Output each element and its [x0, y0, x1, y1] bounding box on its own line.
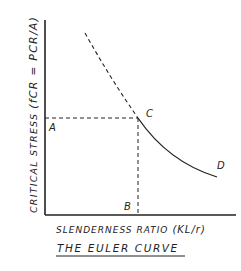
x-axis-label: SLENDERNESS RATIO(KL/r): [56, 224, 206, 235]
x-axis-label-formula: (KL/r): [172, 224, 205, 235]
y-axis-label-text: CRITICAL STRESS: [28, 113, 39, 213]
point-label-d: D: [217, 160, 225, 171]
euler-curve-dashed: [85, 33, 138, 118]
point-label-c: C: [146, 108, 153, 119]
point-label-b: B: [124, 201, 131, 212]
euler-curve-diagram: A B C D CRITICAL STRESS(fCR = PCR/A) SLE…: [0, 0, 241, 271]
x-axis-label-text: SLENDERNESS RATIO: [56, 225, 168, 235]
euler-curve-solid: [138, 118, 217, 177]
y-axis-label-formula: (fCR = PCR/A): [27, 16, 40, 109]
point-label-a: A: [48, 122, 56, 133]
y-axis-label: CRITICAL STRESS(fCR = PCR/A): [27, 16, 40, 213]
diagram-title: THE EULER CURVE: [57, 242, 179, 254]
